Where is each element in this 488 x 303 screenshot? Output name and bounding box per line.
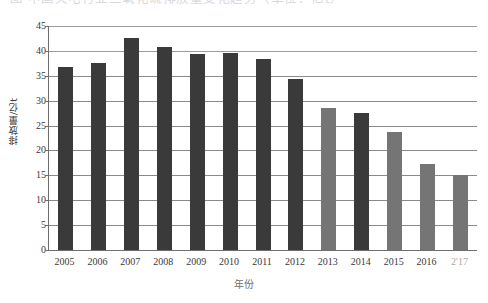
x-tick-label: 2009 <box>180 256 213 268</box>
x-tick-label: 2008 <box>147 256 180 268</box>
bar <box>91 63 106 250</box>
plot-area <box>48 26 477 251</box>
y-tick-mark <box>45 250 49 251</box>
bar <box>256 59 271 250</box>
y-axis-tick-labels: 051015202530354045 <box>26 0 46 303</box>
bar <box>288 79 303 250</box>
x-tick-label: 2005 <box>48 256 81 268</box>
bar <box>223 53 238 250</box>
x-tick-label: 2012 <box>278 256 311 268</box>
x-tick-label: 2016 <box>410 256 443 268</box>
bar <box>453 175 468 250</box>
x-tick-label: 2011 <box>246 256 279 268</box>
bar <box>387 132 402 250</box>
x-tick-label: 2'17 <box>443 256 476 268</box>
bar-chart-figure: 图 中国火电行业二氧化硫排放量变化趋势（单位：亿t） 排放量/亿t 051015… <box>0 0 488 303</box>
x-axis-tick-labels: 2005200620072008200920102011201220132014… <box>48 256 488 272</box>
x-tick-label: 2013 <box>311 256 344 268</box>
x-tick-label: 2007 <box>114 256 147 268</box>
bar <box>420 164 435 250</box>
x-axis-title: 年份 <box>0 276 488 291</box>
x-tick-label: 2015 <box>377 256 410 268</box>
bar <box>124 38 139 250</box>
bar <box>58 67 73 250</box>
x-tick-label: 2014 <box>344 256 377 268</box>
bar <box>321 108 336 250</box>
x-tick-label: 2006 <box>81 256 114 268</box>
caption-text: 图 中国火电行业二氧化硫排放量变化趋势（单位：亿t） <box>10 0 344 7</box>
bars-layer <box>49 26 477 250</box>
bar <box>157 47 172 250</box>
bar <box>190 54 205 250</box>
clipped-caption-strip: 图 中国火电行业二氧化硫排放量变化趋势（单位：亿t） <box>0 0 488 14</box>
bar <box>354 113 369 250</box>
y-axis-title: 排放量/亿t <box>9 98 25 145</box>
x-tick-label: 2010 <box>213 256 246 268</box>
